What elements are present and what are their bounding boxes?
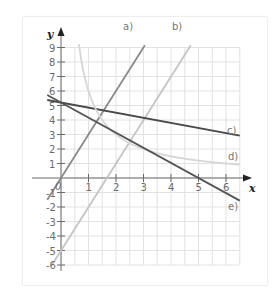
grid bbox=[61, 48, 240, 266]
svg-text:-3: -3 bbox=[46, 217, 56, 228]
svg-text:1: 1 bbox=[49, 159, 55, 170]
label-c: c) bbox=[227, 125, 236, 136]
svg-text:3: 3 bbox=[141, 182, 147, 193]
label-a: a) bbox=[123, 21, 133, 32]
label-e: e) bbox=[228, 201, 238, 212]
svg-text:6: 6 bbox=[223, 182, 229, 193]
svg-text:4: 4 bbox=[49, 115, 55, 126]
line-chart: 123456987654321-1-2-3-4-5-60 y x a) b) c… bbox=[0, 0, 279, 294]
svg-text:5: 5 bbox=[49, 101, 55, 112]
svg-text:7: 7 bbox=[49, 72, 55, 83]
y-axis-label: y bbox=[46, 28, 55, 41]
x-axis-label: x bbox=[248, 182, 256, 195]
svg-text:-4: -4 bbox=[46, 231, 56, 242]
svg-text:9: 9 bbox=[49, 43, 55, 54]
svg-text:0: 0 bbox=[55, 181, 61, 192]
svg-text:-6: -6 bbox=[46, 260, 56, 271]
label-b: b) bbox=[172, 21, 182, 32]
label-d: d) bbox=[228, 151, 238, 162]
svg-text:4: 4 bbox=[168, 182, 174, 193]
svg-text:5: 5 bbox=[196, 182, 202, 193]
svg-text:2: 2 bbox=[113, 182, 119, 193]
svg-text:8: 8 bbox=[49, 57, 55, 68]
svg-text:3: 3 bbox=[49, 130, 55, 141]
svg-text:2: 2 bbox=[49, 144, 55, 155]
svg-text:6: 6 bbox=[49, 86, 55, 97]
svg-text:1: 1 bbox=[86, 182, 92, 193]
svg-text:-5: -5 bbox=[46, 246, 56, 257]
svg-text:-2: -2 bbox=[46, 202, 56, 213]
